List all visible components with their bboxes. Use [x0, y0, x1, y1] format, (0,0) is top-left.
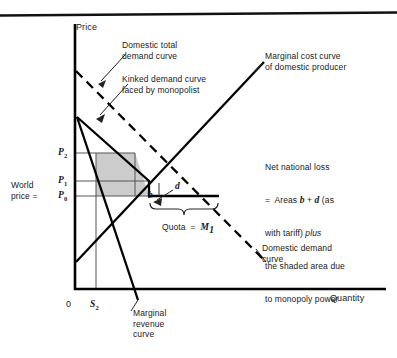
- net-loss-line-2-mid: +: [305, 195, 315, 205]
- quota-label: Quota = M1: [162, 222, 214, 235]
- net-loss-line-1: Net national loss: [265, 162, 393, 173]
- net-loss-plus-emphasis: plus: [305, 228, 321, 238]
- arrowhead-kinked-demand: [96, 114, 105, 123]
- net-loss-line-2-post: (as: [319, 195, 334, 205]
- quantity-tick-s2-sub: 2: [95, 304, 98, 311]
- origin-label: 0: [66, 299, 71, 310]
- price-tick-p0: P0: [58, 190, 67, 204]
- net-loss-line-3: with tariff) plus: [265, 228, 393, 239]
- net-loss-line-2-pre: = Areas: [265, 195, 300, 205]
- annotation-domestic-total-demand: Domestic total demand curve: [122, 40, 177, 61]
- price-tick-p2: P2: [58, 147, 67, 161]
- arrowhead-domestic-total-demand: [98, 80, 106, 88]
- annotation-marginal-revenue: Marginal revenue curve: [133, 308, 166, 340]
- net-loss-line-2: = Areas b + d (as: [265, 195, 393, 206]
- price-axis-label: Price: [76, 22, 97, 33]
- annotation-kinked-demand: Kinked demand curve faced by monopolist: [122, 74, 206, 95]
- quota-symbol-sub: 1: [209, 225, 214, 235]
- quantity-tick-s2: S2: [90, 299, 99, 313]
- price-tick-p0-sub: 0: [64, 195, 67, 202]
- page-top-rule: [0, 13, 397, 16]
- economics-diagram-figure: Price Quantity 0 P2 P1 P0 S2 World price…: [0, 0, 397, 358]
- net-loss-line-5: to monopoly power: [265, 294, 393, 305]
- leader-marginal-cost: [254, 63, 263, 72]
- net-national-loss-note: Net national loss = Areas b + d (as with…: [265, 140, 393, 327]
- price-tick-p2-sub: 2: [64, 152, 67, 159]
- quota-label-prefix: Quota =: [162, 222, 201, 232]
- price-tick-p1-sub: 1: [64, 180, 67, 187]
- quota-symbol: M: [201, 222, 210, 232]
- area-label-b: b: [148, 190, 153, 201]
- world-price-label: World price =: [11, 180, 37, 201]
- area-label-d: d: [175, 181, 180, 192]
- price-tick-p1: P1: [58, 175, 67, 189]
- net-loss-line-4: the shaded area due: [265, 261, 393, 272]
- net-loss-line-3-pre: with tariff): [265, 228, 305, 238]
- annotation-marginal-cost: Marginal cost curve of domestic producer: [265, 51, 346, 72]
